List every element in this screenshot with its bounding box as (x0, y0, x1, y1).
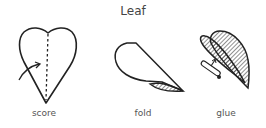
leaf-fold-icon (115, 43, 183, 91)
step-label-fold: fold (113, 108, 173, 118)
heart-leaf-score-icon (19, 28, 76, 103)
step-label-score: score (14, 108, 74, 118)
leaf-glue-icon (200, 31, 249, 88)
step-label-glue: glue (196, 108, 256, 118)
